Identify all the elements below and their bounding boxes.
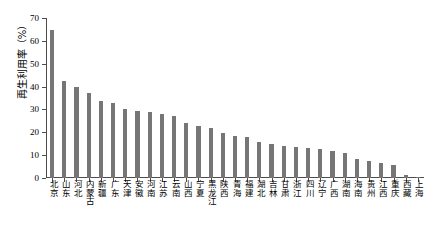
x-tick-label: 河北 xyxy=(72,180,81,197)
bar xyxy=(379,163,383,178)
x-tick-label: 安徽 xyxy=(133,180,142,197)
bar xyxy=(111,103,115,178)
x-tick-label: 江苏 xyxy=(157,180,166,197)
bar-series xyxy=(46,18,424,178)
bar xyxy=(391,165,395,178)
bar xyxy=(209,128,213,178)
bar xyxy=(233,136,237,179)
bar xyxy=(160,114,164,178)
bar xyxy=(62,81,66,178)
recycling-rate-bar-chart: 再生利用率（%） 010203040506070 北京山东河北内蒙古新疆广东天津… xyxy=(0,0,430,239)
x-tick-label: 河南 xyxy=(145,180,154,197)
y-tick-mark xyxy=(42,178,46,179)
bar xyxy=(99,101,103,178)
bar xyxy=(245,137,249,178)
x-tick-label: 上海 xyxy=(413,180,422,197)
y-tick-label: 0 xyxy=(35,173,40,183)
x-tick-label: 广西 xyxy=(328,180,337,197)
bar xyxy=(221,133,225,178)
y-axis-title: 再生利用率（%） xyxy=(14,5,29,115)
x-tick-label: 陕西 xyxy=(218,180,227,197)
bar xyxy=(184,123,188,178)
x-tick-label: 山西 xyxy=(182,180,191,197)
x-tick-label: 新疆 xyxy=(96,180,105,197)
x-tick-label: 宁夏 xyxy=(194,180,203,197)
bar xyxy=(330,151,334,178)
y-tick-label: 10 xyxy=(30,150,39,160)
bar xyxy=(148,112,152,178)
x-tick-label: 吉林 xyxy=(267,180,276,197)
bar xyxy=(306,148,310,178)
x-tick-label: 江西 xyxy=(377,180,386,197)
x-tick-label: 湖北 xyxy=(255,180,264,197)
bar xyxy=(343,153,347,178)
x-tick-label: 山东 xyxy=(60,180,69,197)
bar xyxy=(269,144,273,178)
x-tick-label: 四川 xyxy=(304,180,313,197)
x-tick-label: 西藏 xyxy=(401,180,410,197)
y-tick-label: 40 xyxy=(30,82,39,92)
x-tick-label: 浙江 xyxy=(291,180,300,197)
bar xyxy=(294,147,298,178)
y-tick-label: 20 xyxy=(30,127,39,137)
y-tick-label: 60 xyxy=(30,36,39,46)
x-tick-label: 云南 xyxy=(170,180,179,197)
bar xyxy=(367,161,371,178)
y-tick-label: 30 xyxy=(30,104,39,114)
x-tick-label: 天津 xyxy=(121,180,130,197)
bar xyxy=(50,30,54,178)
y-tick-label: 70 xyxy=(30,13,39,23)
x-tick-label: 青海 xyxy=(231,180,240,197)
bar xyxy=(196,126,200,178)
x-tick-label: 湖南 xyxy=(340,180,349,197)
plot-area: 010203040506070 xyxy=(46,18,424,178)
x-tick-label: 福建 xyxy=(243,180,252,197)
bar xyxy=(74,87,78,178)
x-tick-label: 内蒙古 xyxy=(84,180,93,206)
x-tick-label: 北京 xyxy=(48,180,57,197)
x-tick-label: 重庆 xyxy=(389,180,398,197)
x-tick-label: 甘肃 xyxy=(279,180,288,197)
bar xyxy=(282,146,286,178)
bar xyxy=(318,149,322,178)
x-tick-label: 广东 xyxy=(109,180,118,197)
bar xyxy=(257,142,261,178)
bar xyxy=(355,159,359,178)
bar xyxy=(87,93,91,178)
bar xyxy=(135,111,139,178)
x-axis-labels: 北京山东河北内蒙古新疆广东天津安徽河南江苏云南山西宁夏黑龙江陕西青海福建湖北吉林… xyxy=(46,180,424,239)
y-tick-label: 50 xyxy=(30,59,39,69)
x-tick-label: 海南 xyxy=(352,180,361,197)
bar xyxy=(123,109,127,178)
x-tick-label: 黑龙江 xyxy=(206,180,215,206)
bar xyxy=(172,116,176,178)
x-tick-label: 贵州 xyxy=(365,180,374,197)
x-tick-label: 辽宁 xyxy=(316,180,325,197)
